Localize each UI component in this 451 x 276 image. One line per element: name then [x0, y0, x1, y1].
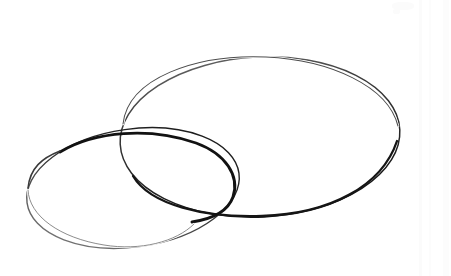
figure-canvas: Two overlapping hand-drawn ellipses	[0, 0, 451, 276]
ellipses-diagram	[0, 0, 451, 276]
